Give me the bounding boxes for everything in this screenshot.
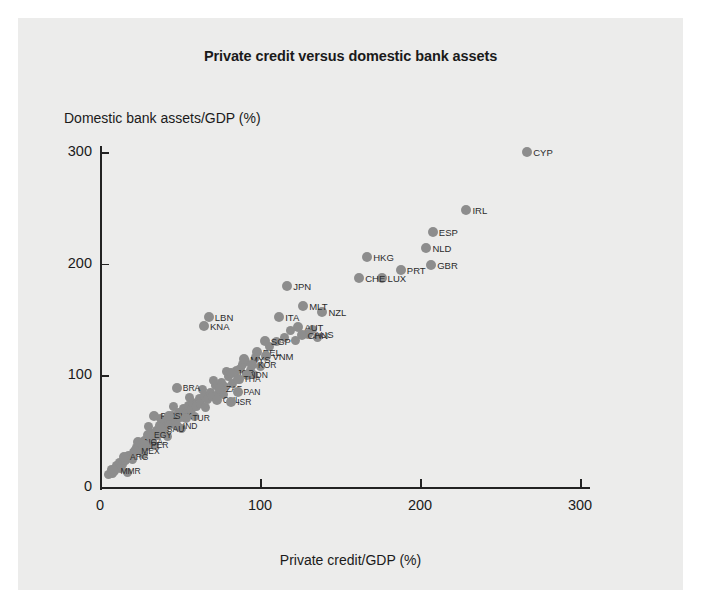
data-point-cyp[interactable] <box>522 147 532 157</box>
data-point-label-hkg: HKG <box>373 252 394 263</box>
x-axis-tick-label: 300 <box>555 497 605 513</box>
x-axis-tick <box>260 479 262 488</box>
x-axis-line <box>100 487 590 489</box>
data-point-esp[interactable] <box>428 227 438 237</box>
data-point-kna[interactable] <box>199 321 209 331</box>
x-axis-tick <box>420 479 422 488</box>
x-axis-tick <box>580 479 582 488</box>
data-point-label-irl: IRL <box>472 205 487 216</box>
data-point-label-gbr: GBR <box>437 260 458 271</box>
data-point-nld[interactable] <box>421 243 431 253</box>
data-point-label-pan: PAN <box>244 387 261 397</box>
data-point-label-esp: ESP <box>439 227 458 238</box>
data-point-label-arg: ARG <box>130 452 148 462</box>
y-axis-tick-label: 200 <box>48 255 92 271</box>
data-point-hkg[interactable] <box>362 252 372 262</box>
data-point-label-mlt: MLT <box>309 301 327 312</box>
data-point-label-ind: IND <box>183 421 198 431</box>
y-axis-tick-label: 100 <box>48 366 92 382</box>
data-point-svk[interactable] <box>164 411 174 421</box>
data-point-ita[interactable] <box>274 312 284 322</box>
data-point-chl[interactable] <box>212 395 222 405</box>
x-axis-tick <box>100 479 102 488</box>
data-point-che[interactable] <box>354 273 364 283</box>
data-point-gbr[interactable] <box>426 260 436 270</box>
data-point[interactable] <box>201 403 210 412</box>
data-point-zaf[interactable] <box>215 384 225 394</box>
data-point-label-nld: NLD <box>432 243 451 254</box>
data-point-tha[interactable] <box>233 374 243 384</box>
data-point-bra[interactable] <box>172 383 182 393</box>
x-axis-tick-label: 100 <box>235 497 285 513</box>
data-point-label-tha: THA <box>244 374 261 384</box>
scatter-plot-area: 01002003000100200300CYPIRLESPNLDGBRPRTHK… <box>18 18 683 590</box>
data-point-arg[interactable] <box>119 452 129 462</box>
y-axis-tick <box>100 375 109 377</box>
data-point-label-sgp: SGP <box>271 336 291 347</box>
data-point-mlt[interactable] <box>298 301 308 311</box>
data-point-chn[interactable] <box>297 330 307 340</box>
chart-panel: Private credit versus domestic bank asse… <box>18 18 683 590</box>
data-point-isr[interactable] <box>226 397 236 407</box>
y-axis-tick-label: 0 <box>48 478 92 494</box>
data-point-label-jpn: JPN <box>293 281 311 292</box>
data-point-label-lux: LUX <box>388 273 406 284</box>
data-point-label-chn: CHN <box>308 330 329 341</box>
data-point-label-bra: BRA <box>183 383 200 393</box>
x-axis-tick-label: 0 <box>75 497 125 513</box>
data-point-label-cyp: CYP <box>533 147 553 158</box>
y-axis-tick <box>100 264 109 266</box>
data-point-jpn[interactable] <box>282 281 292 291</box>
data-point-label-kor: KOR <box>258 360 276 370</box>
data-point-label-mmr: MMR <box>120 466 140 476</box>
data-point-label-isr: ISR <box>237 397 251 407</box>
data-point-pol[interactable] <box>149 411 159 421</box>
data-point-mmr[interactable] <box>109 466 119 476</box>
data-point-label-nzl: NZL <box>328 307 346 318</box>
y-axis-tick <box>100 152 109 154</box>
data-point-irl[interactable] <box>461 205 471 215</box>
y-axis-line <box>100 146 102 490</box>
data-point-sgp[interactable] <box>260 336 270 346</box>
data-point-label-kna: KNA <box>210 321 230 332</box>
y-axis-tick-label: 300 <box>48 143 92 159</box>
data-point-label-prt: PRT <box>407 265 426 276</box>
data-point-label-che: CHE <box>365 273 385 284</box>
x-axis-tick-label: 200 <box>395 497 445 513</box>
